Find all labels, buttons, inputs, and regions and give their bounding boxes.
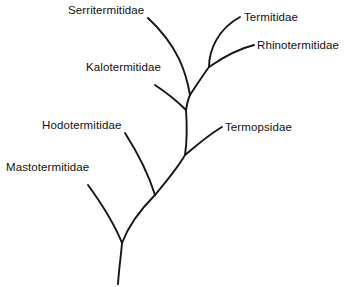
taxon-label-rhinotermitidae: Rhinotermitidae <box>257 39 339 52</box>
taxon-label-termopsidae: Termopsidae <box>225 121 292 134</box>
trunk-root-to-hodotermitidae <box>122 195 155 243</box>
kalotermitidae-branch <box>155 85 186 110</box>
termitidae-branch <box>209 17 240 67</box>
rhinotermitidae-branch <box>209 45 254 67</box>
taxon-label-termitidae: Termitidae <box>244 11 298 24</box>
trunk-hodotermitidae-to-termopsidae <box>155 155 185 195</box>
phylogenetic-tree-figure: Serritermitidae Termitidae Rhinotermitid… <box>0 0 356 287</box>
taxon-label-serritermitidae: Serritermitidae <box>68 4 144 17</box>
taxon-label-mastotermitidae: Mastotermitidae <box>6 161 89 174</box>
termopsidae-branch <box>185 127 222 155</box>
taxon-label-kalotermitidae: Kalotermitidae <box>86 61 161 74</box>
trunk-termopsidae-to-kalotermitidae <box>185 110 187 155</box>
branch-group <box>88 17 254 284</box>
mastotermitidae-branch <box>88 185 122 243</box>
taxon-label-hodotermitidae: Hodotermitidae <box>42 119 121 132</box>
hodotermitidae-branch <box>125 133 155 195</box>
root-stem <box>118 243 122 284</box>
trunk-serritermitidae-to-termitidae-node <box>190 67 209 95</box>
trunk-kalotermitidae-to-serritermitidae <box>186 95 190 110</box>
serritermitidae-branch <box>148 18 190 95</box>
